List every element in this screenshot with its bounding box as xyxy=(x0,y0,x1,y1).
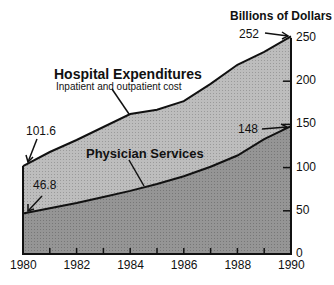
hospital-subtitle: Inpatient and outpatient cost xyxy=(56,81,182,92)
x-tick-label: 1984 xyxy=(117,258,144,272)
y-tick-label: 100 xyxy=(296,160,316,174)
x-tick-label: 1982 xyxy=(64,258,91,272)
hospital-title: Hospital Expenditures xyxy=(54,66,202,82)
annotation-101-6: 101.6 xyxy=(26,124,56,138)
y-axis-label: Billions of Dollars xyxy=(230,9,332,23)
annotation-148: 148 xyxy=(238,122,258,136)
chart-plot xyxy=(0,0,334,285)
x-tick-label: 1986 xyxy=(171,258,198,272)
annotation-46-8: 46.8 xyxy=(33,178,56,192)
y-tick-label: 200 xyxy=(296,73,316,87)
x-tick-label: 1980 xyxy=(10,258,37,272)
y-tick-label: 250 xyxy=(296,30,316,44)
physician-title: Physician Services xyxy=(86,146,204,161)
hospital-leader xyxy=(112,89,129,114)
x-tick-label: 1988 xyxy=(224,258,251,272)
x-tick-label: 1990 xyxy=(278,258,305,272)
annotation-252: 252 xyxy=(239,27,259,41)
y-tick-label: 150 xyxy=(296,116,316,130)
y-tick-label: 50 xyxy=(296,203,309,217)
